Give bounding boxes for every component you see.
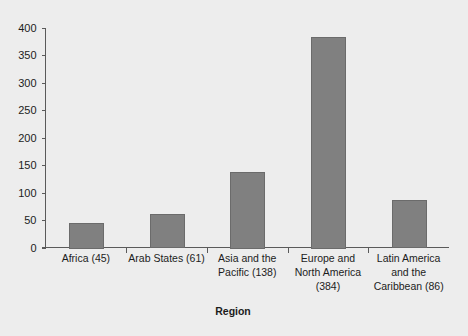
bar: [231, 173, 265, 249]
y-tick-label: 50: [24, 214, 36, 226]
x-category-label: and the: [391, 266, 426, 278]
y-tick-label: 400: [18, 22, 36, 34]
y-tick-label: 250: [18, 104, 36, 116]
x-category-label: Asia and the: [218, 252, 277, 264]
x-category-label: (384): [316, 280, 341, 292]
bar: [70, 224, 104, 249]
x-axis-title: Region: [215, 305, 251, 317]
bar: [151, 215, 185, 248]
bar: [393, 201, 427, 248]
x-axis-category-labels: Africa (45)Arab States (61)Asia and theP…: [62, 252, 444, 292]
x-category-label: Europe and: [301, 252, 355, 264]
y-tick-label: 0: [30, 242, 36, 254]
x-category-label: Arab States (61): [128, 252, 204, 264]
bar-chart-figure: 050100150200250300350400 Africa (45)Arab…: [0, 0, 468, 336]
x-category-label: Latin America: [377, 252, 441, 264]
y-tick-label: 350: [18, 49, 36, 61]
x-category-label: Pacific (138): [218, 266, 276, 278]
x-category-label: North America: [295, 266, 362, 278]
y-tick-label: 200: [18, 132, 36, 144]
y-tick-label: 100: [18, 187, 36, 199]
y-axis-tick-labels: 050100150200250300350400: [18, 22, 36, 254]
y-tick-label: 150: [18, 159, 36, 171]
x-category-label: Caribbean (86): [374, 280, 444, 292]
bar: [312, 38, 346, 249]
y-axis-tick-marks: [42, 29, 46, 249]
y-tick-label: 300: [18, 77, 36, 89]
chart-canvas: 050100150200250300350400 Africa (45)Arab…: [0, 0, 468, 336]
x-category-label: Africa (45): [62, 252, 110, 264]
bar-series: [70, 38, 427, 249]
